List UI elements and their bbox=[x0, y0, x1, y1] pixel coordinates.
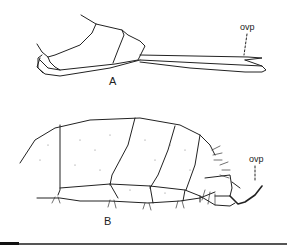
ovp-label-b: ovp bbox=[249, 154, 264, 164]
panel-label-b: B bbox=[104, 215, 111, 227]
insect-abdomen-illustration bbox=[0, 0, 287, 246]
bottom-rule-accent bbox=[0, 242, 19, 245]
ovp-label-a: ovp bbox=[240, 22, 255, 32]
bottom-rule bbox=[0, 243, 287, 245]
panel-b-drawing bbox=[20, 118, 262, 206]
panel-label-a: A bbox=[109, 75, 116, 87]
panel-a-drawing bbox=[37, 15, 266, 76]
figure: ovp A ovp B bbox=[0, 0, 287, 246]
